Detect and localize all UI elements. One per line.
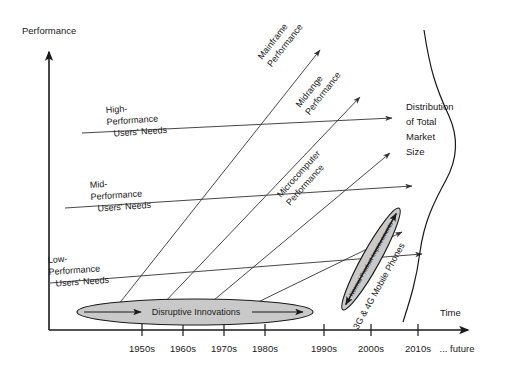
disruptive-innovation-diagram: Performance Time 1950s 1960s 1970s 1980s… (0, 0, 511, 371)
midrange-performance-label-group: Midrange Performance (294, 62, 343, 116)
disruptive-innovations-label: Disruptive Innovations (152, 307, 241, 317)
tick-label-2010s: 2010s (405, 343, 431, 354)
distribution-label-line4: Size (406, 146, 424, 157)
tick-label-future: ... future (440, 343, 475, 354)
tick-label-1990s: 1990s (311, 343, 337, 354)
distribution-label-line1: Distribution (406, 101, 454, 112)
high-needs-label-line3: Users' Needs (113, 125, 168, 139)
mainframe-performance-label-group: Mainframe Performance (256, 14, 305, 68)
mid-needs-label-line3: Users' Needs (97, 200, 152, 214)
distribution-label-line2: of Total (406, 116, 436, 127)
normal-improvements-label: Normal Product Improvements (347, 220, 394, 297)
low-needs-label-line3: Users' Needs (55, 275, 110, 289)
disruptive-innovations-callout: Disruptive Innovations (77, 299, 313, 325)
high-needs-label-line1: High- (105, 104, 127, 115)
tick-label-1970s: 1970s (211, 343, 237, 354)
distribution-label-line3: Market (406, 131, 435, 142)
low-needs-label-line2: Performance (48, 263, 100, 277)
midrange-performance-line (162, 97, 360, 305)
high-needs-label-line2: Performance (106, 113, 158, 127)
diagram-canvas: Performance Time 1950s 1960s 1970s 1980s… (0, 0, 511, 371)
y-axis-label: Performance (22, 25, 76, 36)
low-performance-needs-label-group: Low- Performance Users' Needs (47, 251, 109, 289)
high-performance-needs-label-group: High- Performance Users' Needs (105, 101, 167, 139)
tick-label-1960s: 1960s (170, 343, 196, 354)
mid-performance-needs-label-group: Mid- Performance Users' Needs (89, 176, 151, 214)
x-axis-label: Time (440, 307, 461, 318)
mid-needs-label-line2: Performance (90, 188, 142, 202)
tick-label-1980s: 1980s (252, 343, 278, 354)
tick-label-1950s: 1950s (129, 343, 155, 354)
x-axis-tick-labels: 1950s 1960s 1970s 1980s 1990s 2000s 2010… (129, 343, 474, 354)
mid-needs-label-line1: Mid- (89, 179, 107, 190)
market-size-distribution-curve (403, 30, 455, 322)
low-needs-label-line1: Low- (47, 254, 67, 265)
distribution-label-group: Distribution of Total Market Size (406, 101, 454, 157)
tick-label-2000s: 2000s (358, 343, 384, 354)
